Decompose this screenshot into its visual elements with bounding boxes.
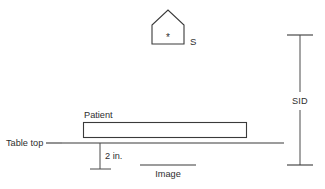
radiographic-geometry-diagram: * S Patient Table top 2 in. Image [0,0,325,189]
image-receptor-group: Image [140,165,196,179]
x-ray-source-group: * S [152,10,196,47]
sid-dimension-group: SID [287,35,313,165]
image-label: Image [155,169,181,179]
source-label: S [190,36,196,47]
table-top-label: Table top [6,138,43,148]
diagram-canvas: * S Patient Table top 2 in. Image [0,0,325,189]
gap-dimension-group: 2 in. [90,143,122,169]
gap-dimension-label: 2 in. [105,151,122,161]
patient-rectangle-icon [84,123,247,138]
patient-group: Patient [84,110,247,138]
table-top-group: Table top [6,138,284,148]
sid-label: SID [292,96,308,106]
focal-spot-asterisk-icon: * [166,32,170,43]
patient-label: Patient [84,110,113,120]
